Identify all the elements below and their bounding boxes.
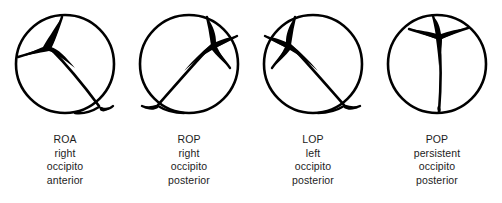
position-word-1: right <box>168 147 210 161</box>
panel-lop: LOP left occipito posterior <box>252 6 374 187</box>
position-word-1: left <box>292 147 334 161</box>
position-abbr: LOP <box>292 133 334 147</box>
skull-diagram-roa <box>13 6 117 124</box>
position-word-3: anterior <box>47 174 83 188</box>
position-word-2: occipito <box>414 160 461 174</box>
skull-outline-icon <box>264 15 362 113</box>
skull-diagram-lop <box>261 6 365 124</box>
panel-rop: ROP right occipito posterior <box>128 6 250 187</box>
position-abbr: ROA <box>47 133 83 147</box>
position-word-3: posterior <box>292 174 334 188</box>
skull-diagram-pop <box>385 6 489 124</box>
suture-lambdoid-upper <box>142 106 157 108</box>
fetal-head-positions-figure: ROA right occipito anterior <box>0 0 502 203</box>
position-word-1: persistent <box>414 147 461 161</box>
position-word-2: occipito <box>168 160 210 174</box>
position-word-2: occipito <box>292 160 334 174</box>
position-word-1: right <box>47 147 83 161</box>
caption-lop: LOP left occipito posterior <box>292 133 334 187</box>
caption-pop: POP persistent occipito posterior <box>414 133 461 187</box>
panel-roa: ROA right occipito anterior <box>4 6 126 187</box>
caption-rop: ROP right occipito posterior <box>168 133 210 187</box>
position-word-2: occipito <box>47 160 83 174</box>
position-abbr: POP <box>414 133 461 147</box>
suture-lambdoid-upper <box>101 106 113 109</box>
panel-pop: POP persistent occipito posterior <box>376 6 498 187</box>
position-word-3: posterior <box>168 174 210 188</box>
suture-lambdoid-upper <box>345 106 360 108</box>
position-word-3: posterior <box>414 174 461 188</box>
caption-roa: ROA right occipito anterior <box>47 133 83 187</box>
skull-outline-icon <box>140 15 238 113</box>
skull-diagram-rop <box>137 6 241 124</box>
position-abbr: ROP <box>168 133 210 147</box>
panel-row: ROA right occipito anterior <box>0 0 502 203</box>
